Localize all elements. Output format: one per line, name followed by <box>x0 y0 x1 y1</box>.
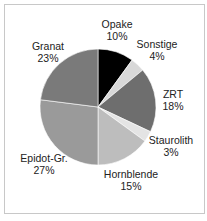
slice-label-hornblende: Hornblende <box>104 168 158 180</box>
slice-label-granat: Granat <box>32 40 64 52</box>
slice-label-sonstige: Sonstige <box>137 38 178 50</box>
slice-percent-zrt: 18% <box>162 100 183 112</box>
slice-label-opake: Opake <box>102 18 133 30</box>
slice-percent-epidot-gr: 27% <box>33 164 54 176</box>
slice-label-staurolith: Staurolith <box>149 134 194 146</box>
slice-label-epidot-gr: Epidot-Gr. <box>20 152 67 164</box>
slice-percent-opake: 10% <box>106 30 127 42</box>
slice-percent-hornblende: 15% <box>120 180 141 192</box>
slice-percent-staurolith: 3% <box>163 146 178 158</box>
slice-label-zrt: ZRT <box>163 88 184 100</box>
slice-percent-sonstige: 4% <box>149 50 164 62</box>
slice-percent-granat: 23% <box>37 52 58 64</box>
pie-chart: Opake10%Sonstige4%ZRT18%Staurolith3%Horn… <box>0 0 207 221</box>
